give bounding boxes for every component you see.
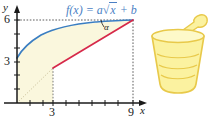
y-tick-label-3: 3 [4,54,10,69]
x-axis-label: x [140,104,145,116]
y-axis-arrow [14,5,20,13]
x-tick-label-3: 3 [49,105,55,120]
y-tick-label-6: 6 [4,12,10,27]
function-formula: f(x) = a√x + b [66,3,150,19]
angle-label: α [104,22,109,32]
figure-root: y x 6 3 3 9 α f(x) = a√x + b [0,0,211,123]
mortar-rim [152,30,204,43]
radical-icon: √ [103,3,110,17]
x-tick-label-9: 9 [128,105,134,120]
mortar-bowl [152,36,204,93]
formula-lhs: f(x) = a [66,3,103,17]
mortar-and-pestle-illustration [146,8,211,100]
shaded-area [17,29,53,103]
formula-rhs: + b [117,3,137,17]
formula-radicand: x [109,2,116,17]
